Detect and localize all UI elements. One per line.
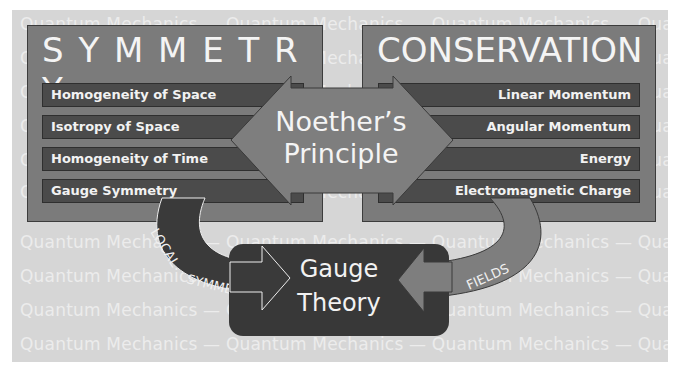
gauge-line2: Theory — [279, 286, 399, 320]
gauge-line1: Gauge — [279, 252, 399, 286]
fields-arrowhead — [398, 248, 452, 312]
gauge-theory-label: Gauge Theory — [279, 252, 399, 320]
